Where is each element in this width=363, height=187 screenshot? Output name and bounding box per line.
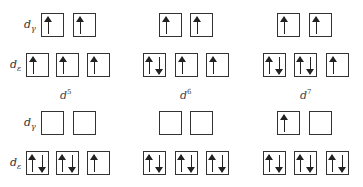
- orbital-box: [206, 53, 229, 77]
- spin-up-arrow-icon: [62, 155, 63, 172]
- depsilon-label-subscript: ε: [17, 162, 21, 171]
- spin-up-arrow-icon: [48, 17, 49, 34]
- orbital-box: [309, 13, 332, 37]
- spin-down-arrow-icon: [159, 57, 160, 74]
- spin-up-arrow-icon: [284, 17, 285, 34]
- orbital-box: [326, 151, 349, 175]
- configuration-base: d: [300, 89, 307, 102]
- orbital-box: [206, 151, 229, 175]
- orbital-box: [175, 53, 198, 77]
- dgamma-label: dγ: [24, 116, 36, 131]
- orbital-box: [175, 151, 198, 175]
- orbital-box: [190, 13, 213, 37]
- orbital-box: [26, 151, 49, 175]
- configuration-superscript: 5: [67, 88, 71, 96]
- spin-up-arrow-icon: [284, 115, 285, 132]
- orbital-box: [309, 111, 332, 135]
- configuration-label-d5: d5: [60, 88, 72, 102]
- orbital-box: [56, 151, 79, 175]
- dgamma-label-subscript: γ: [31, 122, 36, 131]
- spin-up-arrow-icon: [63, 57, 64, 74]
- orbital-box: [41, 13, 64, 37]
- spin-down-arrow-icon: [42, 155, 43, 172]
- configuration-base: d: [60, 89, 67, 102]
- orbital-box: [294, 53, 317, 77]
- spin-down-arrow-icon: [72, 155, 73, 172]
- spin-down-arrow-icon: [310, 155, 311, 172]
- orbital-box: [263, 151, 286, 175]
- spin-up-arrow-icon: [94, 155, 95, 172]
- spin-up-arrow-icon: [269, 57, 270, 74]
- spin-up-arrow-icon: [32, 155, 33, 172]
- orbital-box: [263, 53, 286, 77]
- spin-up-arrow-icon: [332, 155, 333, 172]
- orbital-box: [87, 151, 110, 175]
- dgamma-label-subscript: γ: [31, 24, 36, 33]
- spin-up-arrow-icon: [181, 155, 182, 172]
- spin-up-arrow-icon: [212, 155, 213, 172]
- orbital-box: [326, 53, 349, 77]
- spin-up-arrow-icon: [333, 57, 334, 74]
- spin-up-arrow-icon: [149, 155, 150, 172]
- configuration-superscript: 7: [307, 88, 311, 96]
- orbital-box: [190, 111, 213, 135]
- spin-down-arrow-icon: [191, 155, 192, 172]
- orbital-box: [41, 111, 64, 135]
- spin-up-arrow-icon: [269, 155, 270, 172]
- depsilon-label: dε: [10, 156, 21, 171]
- spin-up-arrow-icon: [300, 57, 301, 74]
- depsilon-label-subscript: ε: [17, 64, 21, 73]
- spin-up-arrow-icon: [197, 17, 198, 34]
- depsilon-label: dε: [10, 58, 21, 73]
- spin-up-arrow-icon: [316, 17, 317, 34]
- orbital-box: [143, 151, 166, 175]
- configuration-label-d6: d6: [180, 88, 192, 102]
- spin-up-arrow-icon: [213, 57, 214, 74]
- spin-down-arrow-icon: [159, 155, 160, 172]
- spin-down-arrow-icon: [279, 57, 280, 74]
- spin-down-arrow-icon: [310, 57, 311, 74]
- depsilon-label-base: d: [10, 58, 17, 71]
- configuration-label-d7: d7: [300, 88, 312, 102]
- spin-up-arrow-icon: [94, 57, 95, 74]
- spin-up-arrow-icon: [182, 57, 183, 74]
- spin-up-arrow-icon: [300, 155, 301, 172]
- orbital-box: [143, 53, 166, 77]
- configuration-superscript: 6: [187, 88, 191, 96]
- orbital-box: [73, 13, 96, 37]
- orbital-box: [277, 13, 300, 37]
- dgamma-label-base: d: [24, 18, 31, 31]
- spin-up-arrow-icon: [80, 17, 81, 34]
- orbital-box: [159, 111, 182, 135]
- orbital-box: [26, 53, 49, 77]
- spin-up-arrow-icon: [149, 57, 150, 74]
- configuration-base: d: [180, 89, 187, 102]
- orbital-box: [277, 111, 300, 135]
- dgamma-label: dγ: [24, 18, 36, 33]
- orbital-box: [87, 53, 110, 77]
- spin-up-arrow-icon: [33, 57, 34, 74]
- orbital-box: [56, 53, 79, 77]
- dgamma-label-base: d: [24, 116, 31, 129]
- orbital-box: [73, 111, 96, 135]
- spin-down-arrow-icon: [342, 155, 343, 172]
- orbital-box: [159, 13, 182, 37]
- spin-down-arrow-icon: [222, 155, 223, 172]
- depsilon-label-base: d: [10, 156, 17, 169]
- orbital-box: [294, 151, 317, 175]
- spin-down-arrow-icon: [279, 155, 280, 172]
- spin-up-arrow-icon: [166, 17, 167, 34]
